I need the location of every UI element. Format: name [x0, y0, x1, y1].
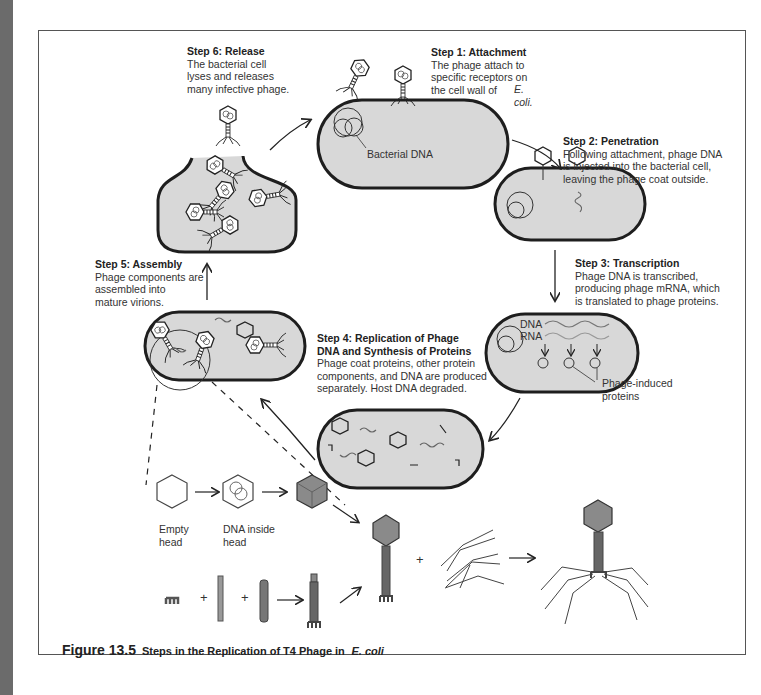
plus-sign-1: + [200, 592, 208, 605]
step6-body: The bacterial cell lyses and releases ma… [187, 58, 289, 96]
figure-number: Figure 13.5 [62, 642, 136, 658]
step1-body: The phage attach to specific receptors o… [431, 59, 527, 97]
head-tail-phage [373, 515, 399, 602]
step6-title: Step 6: Release [187, 45, 289, 58]
step4-cell [318, 410, 483, 488]
rna-label: RNA [520, 330, 542, 343]
step1-title: Step 1: Attachment [431, 46, 527, 59]
step4-title-line1: Step 4: Replication of Phage [317, 332, 487, 345]
step2-label: Step 2: Penetration Following attachment… [563, 135, 722, 185]
head-assembly-row [157, 475, 358, 522]
step1-body-italic: E. coli. [514, 83, 533, 108]
step5-label: Step 5: Assembly Phage components are as… [95, 258, 204, 308]
step6-lysed-cell [158, 106, 296, 252]
bacterial-dna-label: Bacterial DNA [367, 148, 433, 161]
figure-title-italic: E. coli [351, 645, 383, 657]
step6-label: Step 6: Release The bacterial cell lyses… [187, 45, 289, 95]
step5-title: Step 5: Assembly [95, 258, 204, 271]
figure-title: Steps in the Replication of T4 Phage in [142, 645, 345, 657]
plus-sign-3: + [416, 554, 424, 567]
step2-title: Step 2: Penetration [563, 135, 722, 148]
step5-cell [145, 312, 305, 390]
tail-fibers [441, 530, 504, 588]
step2-body: Following attachment, phage DNA is injec… [563, 148, 722, 186]
step4-body: Phage coat proteins, other protein compo… [317, 357, 487, 395]
empty-head-label: Empty head [159, 523, 189, 548]
tail-assembly-row [166, 574, 360, 628]
step4-title-line2: DNA and Synthesis of Proteins [317, 345, 487, 358]
mature-phage [541, 500, 648, 624]
dna-label: DNA [520, 318, 542, 331]
step3-body: Phage DNA is transcribed, producing phag… [575, 270, 720, 308]
step1-label: Step 1: Attachment The phage attach to s… [431, 46, 527, 96]
step3-title: Step 3: Transcription [575, 257, 720, 270]
dna-inside-head-label: DNA inside head [223, 523, 275, 548]
phage-induced-proteins-label: Phage-induced proteins [602, 377, 673, 402]
step3-label: Step 3: Transcription Phage DNA is trans… [575, 257, 720, 307]
step5-body: Phage components are assembled into matu… [95, 271, 204, 309]
figure-caption: Figure 13.5Steps in the Replication of T… [62, 642, 384, 658]
step4-label: Step 4: Replication of Phage DNA and Syn… [317, 332, 487, 395]
plus-sign-2: + [241, 592, 249, 605]
